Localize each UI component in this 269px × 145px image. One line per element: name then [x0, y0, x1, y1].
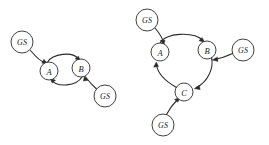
edge-path: [48, 54, 80, 62]
edge-path: [157, 65, 177, 88]
node-label: B: [78, 64, 83, 74]
arrowhead-icon: [194, 85, 200, 89]
node-label: GS: [158, 121, 168, 130]
node-state-c-right[interactable]: C: [175, 83, 193, 101]
node-state-b-right[interactable]: B: [198, 41, 216, 59]
node-gs-right-top[interactable]: GS: [136, 9, 158, 31]
edge-path: [197, 58, 213, 88]
node-state-a-right[interactable]: A: [151, 43, 169, 61]
edge-b-to-c-right: [194, 58, 212, 90]
node-label: GS: [17, 38, 27, 47]
edge-gs3-to-c-right: [167, 97, 180, 114]
edge-c-to-a-right: [154, 62, 177, 88]
node-label: C: [181, 88, 187, 98]
edge-path: [52, 77, 83, 85]
node-gs-right-side[interactable]: GS: [232, 39, 254, 61]
node-label: GS: [238, 46, 248, 55]
edge-gs2-to-b: [83, 76, 97, 90]
node-gs-left-bottom[interactable]: GS: [94, 85, 116, 107]
edge-gs1-to-a: [31, 51, 48, 64]
edge-path: [167, 99, 179, 115]
edge-gs2-to-b-right: [212, 54, 232, 62]
two-node-cycle-diagram: GS A B GS: [11, 31, 116, 107]
node-label: GS: [100, 92, 110, 101]
edge-path: [86, 78, 97, 90]
node-label: A: [156, 48, 163, 58]
three-node-cycle-diagram: GS A B GS C GS: [136, 9, 254, 136]
arrowhead-icon: [212, 57, 218, 62]
edge-path: [160, 34, 203, 42]
node-gs-right-bottom[interactable]: GS: [152, 114, 174, 136]
node-state-a-left[interactable]: A: [40, 62, 58, 80]
node-gs-left-top[interactable]: GS: [11, 31, 33, 53]
node-label: B: [204, 46, 209, 56]
edge-a-to-b-right: [160, 34, 204, 42]
node-label: A: [45, 67, 52, 77]
state-transition-diagram-figure: GS A B GS: [0, 0, 269, 145]
arrowhead-icon: [154, 62, 159, 67]
node-state-b-left[interactable]: B: [72, 59, 90, 77]
node-label: GS: [142, 16, 152, 25]
